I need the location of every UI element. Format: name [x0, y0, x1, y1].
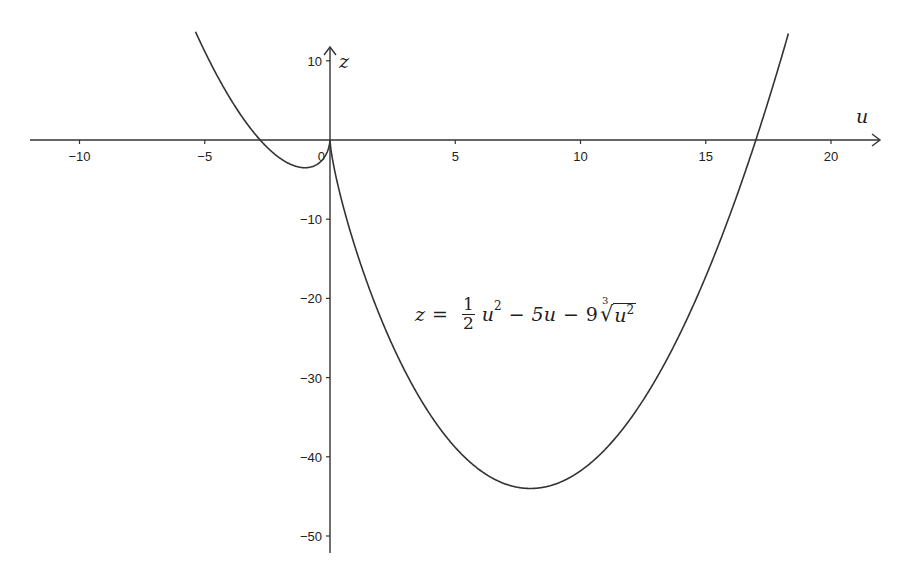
radicand-exponent: 2 [627, 303, 635, 317]
function-formula: z = 1 2 u2 − 5u − 9 3 √ u2 [415, 296, 636, 333]
root-index: 3 [602, 295, 608, 306]
radicand: u2 [613, 303, 636, 326]
x-tick-label: 15 [699, 149, 713, 164]
function-curve [195, 32, 788, 489]
term3-coefficient: 9 [586, 303, 598, 325]
x-tick-label: 10 [573, 149, 587, 164]
y-tick-label: −20 [300, 291, 322, 306]
fraction-denominator: 2 [461, 315, 476, 333]
formula-minus-1: − [509, 303, 525, 325]
formula-minus-2: − [563, 303, 579, 325]
formula-equals: = [432, 303, 448, 325]
formula-fraction: 1 2 [461, 296, 476, 333]
y-tick-label: 10 [308, 54, 322, 69]
function-plot: −10−505101520 10−10−20−30−40−50 u z [0, 0, 913, 581]
x-tick-label: −10 [68, 149, 90, 164]
y-tick-label: −50 [300, 529, 322, 544]
x-tick-label: −5 [197, 149, 212, 164]
y-tick-label: −40 [300, 450, 322, 465]
y-tick-label: −10 [300, 212, 322, 227]
fraction-numerator: 1 [461, 296, 476, 314]
y-axis-ticks: 10−10−20−30−40−50 [300, 54, 330, 544]
term2: 5u [532, 303, 556, 325]
x-tick-label: 5 [452, 149, 459, 164]
y-axis [324, 47, 336, 553]
x-tick-label: 20 [824, 149, 838, 164]
x-axis-label: u [856, 105, 868, 127]
y-axis-label: z [338, 50, 350, 72]
formula-lhs: z [415, 303, 425, 325]
y-tick-label: −30 [300, 371, 322, 386]
radicand-variable: u [614, 304, 626, 326]
term1-exponent: 2 [494, 299, 502, 313]
cube-root: 3 √ u2 [600, 302, 636, 326]
term1-variable: u [482, 303, 494, 325]
x-axis-ticks: −10−505101520 [68, 140, 838, 164]
